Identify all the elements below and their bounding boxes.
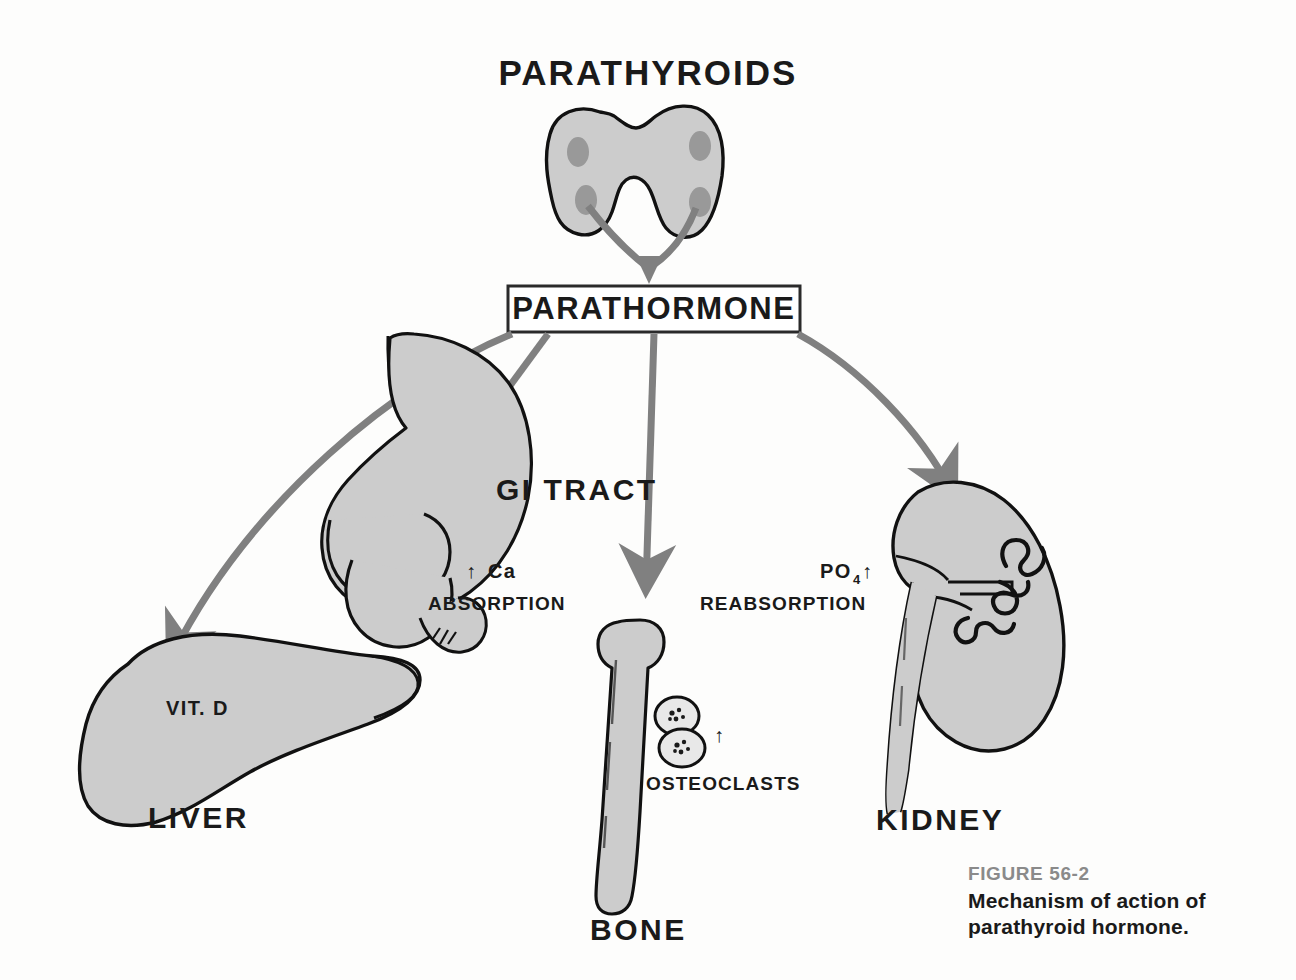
page-title: PARATHYROIDS (499, 53, 798, 92)
caption-line-1: Mechanism of action of (968, 889, 1207, 912)
parathormone-box: PARATHORMONE (508, 286, 800, 332)
osteoclast-up-arrow-icon: ↑ (714, 724, 725, 746)
po4-reabsorption-label: REABSORPTION (700, 593, 866, 614)
parathormone-label: PARATHORMONE (512, 291, 795, 326)
kidney-label: KIDNEY (876, 803, 1004, 836)
gi-tract-label: GI TRACT (496, 473, 658, 506)
po4-subscript: 4 (853, 572, 861, 587)
liver-label: LIVER (148, 801, 249, 834)
osteoclasts-label: OSTEOCLASTS (646, 773, 801, 794)
figure-page: PARATHYROIDS PARATHORMONE (0, 0, 1296, 980)
ca-analyte-label: Ca (488, 560, 516, 582)
parathyroid-nodule-upper-right (689, 131, 711, 161)
figure-number: FIGURE 56-2 (968, 863, 1090, 884)
parathyroid-nodule-upper-left (567, 137, 589, 167)
caption-line-2: parathyroid hormone. (968, 915, 1189, 938)
parathyroid-mechanism-diagram: PARATHYROIDS PARATHORMONE (0, 0, 1296, 980)
vitamin-d-label: VIT. D (166, 697, 229, 719)
po4-up-arrow-icon: ↑ (862, 560, 873, 582)
ca-up-arrow-icon: ↑ (466, 560, 477, 582)
bone-label: BONE (590, 913, 687, 946)
ca-absorption-label: ABSORPTION (428, 593, 566, 614)
po4-analyte-label: PO (820, 560, 852, 582)
